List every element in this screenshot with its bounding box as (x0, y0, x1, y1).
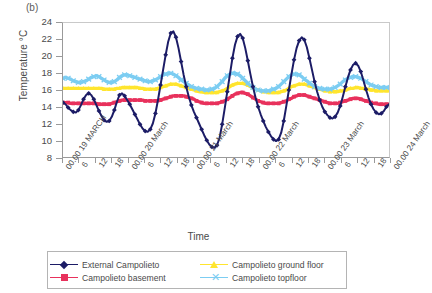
x-axis-tick (144, 158, 145, 163)
x-axis-hour-label: 6 (343, 160, 353, 169)
x-axis-hour-label: 18 (179, 157, 192, 170)
x-axis-tick (374, 158, 375, 163)
y-axis-tick (56, 22, 62, 23)
legend-item[interactable]: ✕Campolieto topfloor (200, 273, 350, 283)
data-point (241, 91, 245, 95)
data-point (328, 102, 332, 106)
star-icon: ✕ (200, 273, 228, 283)
y-axis-tick (56, 56, 62, 57)
y-axis-tick-label: 20 (30, 50, 52, 61)
x-axis-hour-label: 18 (113, 157, 126, 170)
x-axis-hour-label: 12 (228, 157, 241, 170)
legend-item[interactable]: Campolieto ground floor (200, 260, 350, 270)
x-axis-tick (242, 158, 243, 163)
legend-item[interactable]: Campolieto basement (50, 273, 200, 283)
legend-label: Campolieto ground floor (232, 260, 324, 270)
data-point (349, 97, 353, 101)
y-axis-tick (56, 141, 62, 142)
x-axis-hour-label: 18 (244, 157, 257, 170)
x-axis-tick (177, 158, 178, 163)
data-point (102, 102, 106, 106)
y-axis-tick-label: 24 (30, 16, 52, 27)
y-axis-tick-label: 14 (30, 101, 52, 112)
legend-label: External Campolieto (82, 260, 159, 270)
x-axis-hour-label: 12 (97, 157, 110, 170)
data-point (272, 102, 276, 106)
x-axis-hour-label: 18 (376, 157, 389, 170)
y-axis-tick-label: 10 (30, 135, 52, 146)
x-axis-tick (95, 158, 96, 163)
data-point (307, 56, 312, 61)
data-point (379, 102, 383, 106)
data-point (71, 102, 75, 106)
data-point (66, 101, 70, 105)
data-point (231, 94, 235, 98)
data-point (323, 100, 327, 104)
x-axis-tick (210, 158, 211, 163)
x-axis-date-label: 00.00 24 March (392, 119, 432, 171)
x-axis-hour-label: 12 (294, 157, 307, 170)
legend-label: Campolieto topfloor (232, 273, 307, 283)
data-point (200, 101, 204, 105)
data-point (354, 97, 358, 101)
data-point (87, 102, 91, 106)
x-axis-hour-label: 6 (146, 160, 156, 169)
y-axis-tick (56, 107, 62, 108)
data-point (143, 99, 147, 103)
data-point (163, 52, 168, 57)
data-point (148, 99, 152, 103)
data-point (195, 99, 199, 103)
y-axis-title: Temperature °C (18, 0, 29, 136)
data-point (277, 102, 281, 106)
y-axis-tick-label: 16 (30, 84, 52, 95)
data-point (164, 97, 168, 101)
data-point (215, 102, 219, 106)
x-axis-tick (128, 158, 129, 163)
y-axis-tick-label: 8 (30, 152, 52, 163)
data-point (133, 98, 137, 102)
y-axis-tick (56, 124, 62, 125)
chart-legend: External CampolietoCampolieto ground flo… (47, 251, 347, 289)
data-point (159, 98, 163, 102)
data-point (261, 101, 265, 105)
legend-item[interactable]: External Campolieto (50, 260, 200, 270)
data-point (292, 95, 296, 99)
data-point (179, 59, 184, 64)
x-axis-tick (226, 158, 227, 163)
data-point (374, 102, 378, 106)
x-axis-tick (308, 158, 309, 163)
square-icon (50, 273, 78, 283)
data-point (297, 93, 301, 97)
data-point (282, 100, 286, 104)
y-axis-tick-label: 12 (30, 118, 52, 129)
diamond-icon (50, 260, 78, 270)
data-point (343, 99, 347, 103)
y-axis-tick (56, 39, 62, 40)
data-point (266, 102, 270, 106)
x-axis-tick (341, 158, 342, 163)
x-axis-tick (357, 158, 358, 163)
data-point (236, 91, 240, 95)
triangle-icon (200, 260, 228, 270)
x-axis-tick (160, 158, 161, 163)
data-point (364, 99, 368, 103)
data-point (313, 97, 317, 101)
data-point (220, 100, 224, 104)
data-point (210, 102, 214, 106)
x-axis-tick (390, 158, 391, 163)
y-axis-tick-label: 22 (30, 33, 52, 44)
data-point (302, 93, 306, 97)
data-point (359, 97, 363, 101)
x-axis-hour-label: 6 (80, 160, 90, 169)
x-axis-hour-label: 6 (277, 160, 287, 169)
x-axis-tick (62, 158, 63, 163)
x-axis-title: Time (0, 231, 397, 242)
data-point (169, 95, 173, 99)
x-axis-tick (292, 158, 293, 163)
data-point (174, 94, 178, 98)
data-point (281, 119, 286, 124)
data-point (308, 95, 312, 99)
data-point (179, 94, 183, 98)
x-axis-hour-label: 12 (359, 157, 372, 170)
